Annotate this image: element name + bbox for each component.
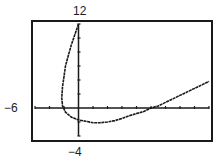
calculator-graph-screen: [0, 0, 218, 161]
screen-frame: [32, 21, 212, 141]
